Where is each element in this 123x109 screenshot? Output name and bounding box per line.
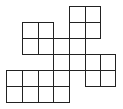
grid-cell: [69, 38, 86, 55]
grid-cell: [38, 38, 54, 55]
grid-cell: [22, 70, 39, 87]
grid-cell: [85, 22, 101, 39]
grid-cell: [6, 70, 23, 87]
grid-cell: [69, 6, 86, 23]
grid-cell: [69, 54, 86, 71]
grid-cell: [85, 70, 101, 87]
grid-cell: [69, 22, 86, 39]
grid-cell: [53, 70, 70, 87]
grid-cell: [85, 54, 101, 71]
grid-cell: [53, 38, 70, 55]
grid-cell: [22, 38, 39, 55]
grid-cell: [85, 6, 101, 23]
grid-cell: [22, 22, 39, 39]
grid-cell: [38, 22, 54, 39]
grid-cell: [38, 70, 54, 87]
grid-cell: [100, 70, 116, 87]
grid-cell: [6, 86, 23, 103]
grid-cell: [100, 54, 116, 71]
grid-cell: [53, 86, 70, 103]
grid-cell: [53, 54, 70, 71]
grid-cell: [38, 86, 54, 103]
grid-cell: [22, 86, 39, 103]
